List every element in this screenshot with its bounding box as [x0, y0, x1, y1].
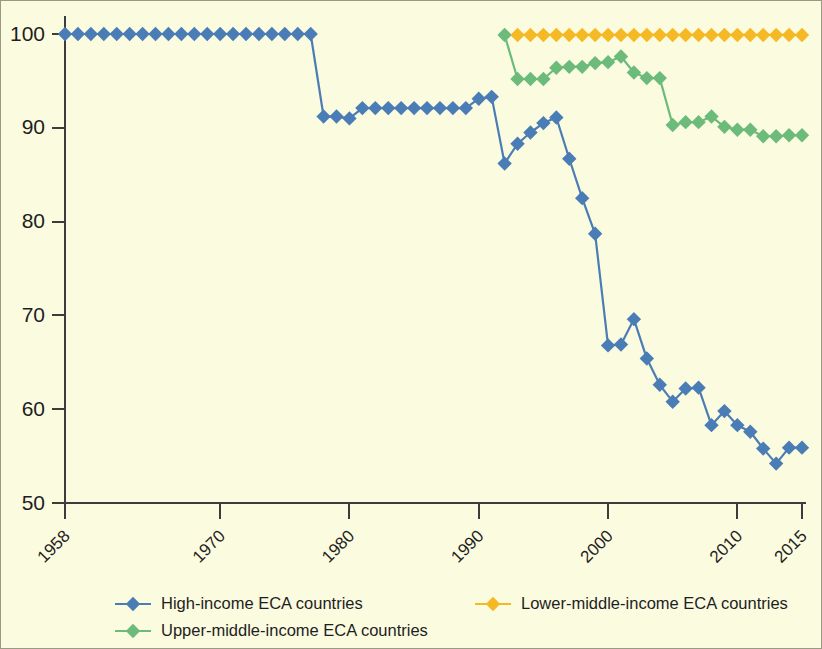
data-point-marker	[730, 28, 744, 42]
legend-item[interactable]: Upper-middle-income ECA countries	[115, 621, 428, 639]
data-point-marker	[769, 129, 783, 143]
data-point-marker	[368, 101, 382, 115]
legend-swatch-marker	[126, 624, 140, 638]
data-point-marker	[588, 56, 602, 70]
data-point-marker	[743, 122, 757, 136]
data-point-marker	[497, 28, 511, 42]
data-point-marker	[640, 28, 654, 42]
line-chart-plot: 5060708090100 19581970198019902000201020…	[1, 1, 822, 649]
data-point-marker	[653, 71, 667, 85]
x-tick-label: 1970	[189, 526, 229, 566]
chart-figure: 5060708090100 19581970198019902000201020…	[0, 0, 822, 649]
data-point-marker	[743, 28, 757, 42]
data-point-marker	[562, 60, 576, 74]
data-point-marker	[678, 115, 692, 129]
data-point-marker	[122, 27, 136, 41]
data-point-marker	[795, 128, 809, 142]
data-point-marker	[523, 72, 537, 86]
data-point-marker	[265, 27, 279, 41]
data-point-marker	[549, 28, 563, 42]
data-point-marker	[252, 27, 266, 41]
data-point-marker	[691, 115, 705, 129]
legend-item[interactable]: Lower-middle-income ECA countries	[475, 594, 788, 612]
data-point-marker	[795, 440, 809, 454]
data-point-marker	[84, 27, 98, 41]
legend-swatch-marker	[126, 597, 140, 611]
data-point-marker	[704, 28, 718, 42]
data-point-marker	[433, 101, 447, 115]
data-point-marker	[316, 109, 330, 123]
y-tick-label: 70	[22, 303, 45, 326]
data-point-marker	[756, 129, 770, 143]
x-tick-label: 2010	[706, 526, 746, 566]
data-point-marker	[666, 28, 680, 42]
data-point-marker	[291, 27, 305, 41]
data-point-marker	[278, 27, 292, 41]
data-point-marker	[730, 122, 744, 136]
y-tick-label: 60	[22, 397, 45, 420]
data-point-marker	[769, 28, 783, 42]
data-point-marker	[174, 27, 188, 41]
data-point-marker	[782, 128, 796, 142]
data-point-marker	[717, 28, 731, 42]
y-tick-label: 50	[22, 491, 45, 514]
data-point-marker	[601, 28, 615, 42]
x-tick-label: 1990	[447, 526, 487, 566]
y-tick-label: 100	[10, 22, 45, 45]
data-point-marker	[97, 27, 111, 41]
data-point-marker	[226, 27, 240, 41]
data-point-marker	[601, 338, 615, 352]
data-point-marker	[627, 28, 641, 42]
data-point-marker	[627, 312, 641, 326]
data-point-marker	[575, 28, 589, 42]
data-point-marker	[691, 28, 705, 42]
data-point-marker	[394, 101, 408, 115]
legend-label: Upper-middle-income ECA countries	[161, 621, 428, 639]
x-tick-label: 1958	[34, 526, 74, 566]
data-point-marker	[161, 27, 175, 41]
x-tick-label: 1980	[318, 526, 358, 566]
data-point-marker	[678, 28, 692, 42]
data-point-marker	[381, 101, 395, 115]
data-point-marker	[329, 109, 343, 123]
data-point-marker	[148, 27, 162, 41]
data-point-marker	[575, 60, 589, 74]
data-point-marker	[459, 101, 473, 115]
chart-series	[510, 28, 809, 42]
data-point-marker	[666, 118, 680, 132]
data-point-marker	[562, 152, 576, 166]
data-point-marker	[588, 227, 602, 241]
y-tick-label: 80	[22, 209, 45, 232]
data-point-marker	[640, 71, 654, 85]
data-point-marker	[200, 27, 214, 41]
data-point-marker	[653, 28, 667, 42]
data-point-marker	[549, 110, 563, 124]
legend-item[interactable]: High-income ECA countries	[115, 594, 363, 612]
x-axis: 1958197019801990200020102015	[34, 503, 811, 567]
data-point-marker	[110, 27, 124, 41]
y-axis: 5060708090100	[10, 16, 65, 514]
data-point-marker	[614, 28, 628, 42]
data-point-marker	[536, 28, 550, 42]
x-tick-label: 2000	[577, 526, 617, 566]
data-point-marker	[588, 28, 602, 42]
data-point-marker	[562, 28, 576, 42]
data-point-marker	[497, 156, 511, 170]
data-point-marker	[575, 191, 589, 205]
data-point-marker	[303, 27, 317, 41]
data-point-marker	[510, 28, 524, 42]
data-point-marker	[756, 28, 770, 42]
data-point-marker	[536, 116, 550, 130]
data-point-marker	[523, 28, 537, 42]
data-point-marker	[135, 27, 149, 41]
legend-label: High-income ECA countries	[161, 594, 363, 612]
data-point-marker	[484, 90, 498, 104]
data-point-marker	[420, 101, 434, 115]
data-point-marker	[782, 28, 796, 42]
data-point-marker	[71, 27, 85, 41]
data-point-marker	[795, 28, 809, 42]
data-point-marker	[446, 101, 460, 115]
legend-swatch-marker	[486, 597, 500, 611]
series-line	[65, 34, 802, 464]
chart-series	[58, 27, 809, 471]
